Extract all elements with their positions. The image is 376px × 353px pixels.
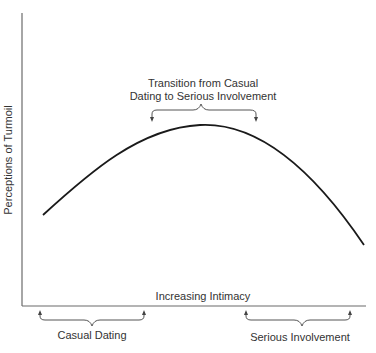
diagram-canvas: Perceptions of Turmoil Increasing Intima… xyxy=(0,0,376,353)
arrow-up-icon xyxy=(244,310,248,315)
y-axis-label: Perceptions of Turmoil xyxy=(2,105,14,214)
transition-label-line2: Dating to Serious Involvement xyxy=(130,90,277,102)
arrow-up-icon xyxy=(38,310,42,315)
casual-dating-brace xyxy=(38,310,146,326)
turmoil-intimacy-diagram: Perceptions of Turmoil Increasing Intima… xyxy=(0,0,376,353)
turmoil-curve xyxy=(43,125,364,245)
arrow-up-icon xyxy=(142,310,146,315)
serious-involvement-label: Serious Involvement xyxy=(250,331,350,343)
arrow-up-icon xyxy=(348,310,352,315)
transition-brace xyxy=(150,104,258,122)
transition-label-line1: Transition from Casual xyxy=(148,77,258,89)
casual-dating-label: Casual Dating xyxy=(57,329,126,341)
serious-involvement-brace xyxy=(244,310,352,326)
x-axis-label: Increasing Intimacy xyxy=(156,290,251,302)
arrow-down-icon xyxy=(254,117,258,122)
arrow-down-icon xyxy=(150,117,154,122)
